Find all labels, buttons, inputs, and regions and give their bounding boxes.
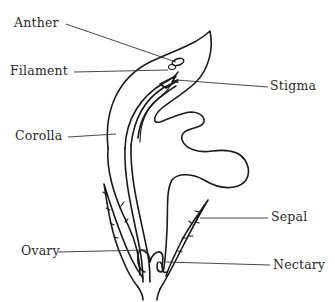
anther-inner bbox=[169, 65, 176, 70]
leader-corolla bbox=[68, 134, 116, 137]
stem-left bbox=[138, 287, 143, 300]
leader-stigma bbox=[176, 80, 268, 87]
label-filament: Filament bbox=[10, 65, 68, 78]
label-corolla: Corolla bbox=[15, 130, 62, 143]
label-stigma: Stigma bbox=[270, 80, 316, 93]
leader-filament bbox=[74, 70, 168, 72]
corolla-outline bbox=[107, 31, 248, 272]
corolla-tube-inner-2 bbox=[131, 145, 150, 282]
leader-ovary bbox=[58, 250, 146, 252]
label-anther: Anther bbox=[14, 17, 59, 30]
nectary-shape bbox=[157, 262, 167, 273]
stem-right bbox=[157, 289, 160, 300]
label-ovary: Ovary bbox=[21, 245, 60, 258]
anther-shape bbox=[171, 57, 184, 67]
flower-diagram: Anther Filament Stigma Corolla Sepal Ova… bbox=[0, 0, 335, 302]
style-column-3 bbox=[138, 86, 176, 138]
leader-nectary bbox=[166, 262, 270, 265]
label-sepal: Sepal bbox=[271, 211, 307, 224]
leader-anther bbox=[66, 24, 176, 62]
label-nectary: Nectary bbox=[273, 259, 325, 272]
